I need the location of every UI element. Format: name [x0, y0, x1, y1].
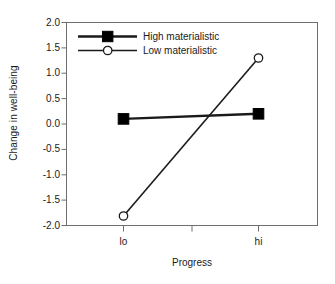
legend-label-high-materialistic: High materialistic	[143, 31, 219, 42]
x-tick-label-group: lo hi	[0, 0, 335, 284]
x-tick-label-hi: hi	[239, 236, 279, 247]
chart-figure: 2.0 1.5 1.0 0.5 0.0 -0.5 -1.0 -1.5 -2.0 …	[0, 0, 335, 284]
y-axis-title: Change in well-being	[8, 0, 26, 228]
x-tick-label-lo: lo	[104, 236, 144, 247]
x-axis-title: Progress	[66, 257, 318, 268]
legend-label-low-materialistic: Low materialistic	[143, 45, 217, 56]
